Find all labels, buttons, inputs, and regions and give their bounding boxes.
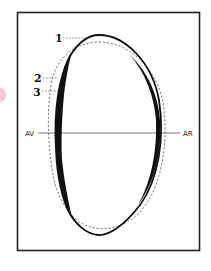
- callout-1-label: 1: [55, 32, 63, 45]
- diagram-svg: AV AR 1 2 3: [0, 0, 211, 271]
- diagram-frame: [18, 13, 200, 251]
- wear-region-right: [130, 55, 160, 205]
- axis-label-av: AV: [25, 130, 34, 138]
- callout-3-label: 3: [33, 86, 41, 99]
- diagram-canvas: AV AR 1 2 3: [0, 0, 211, 271]
- axis-label-ar: AR: [183, 130, 193, 138]
- callout-2-label: 2: [34, 72, 42, 85]
